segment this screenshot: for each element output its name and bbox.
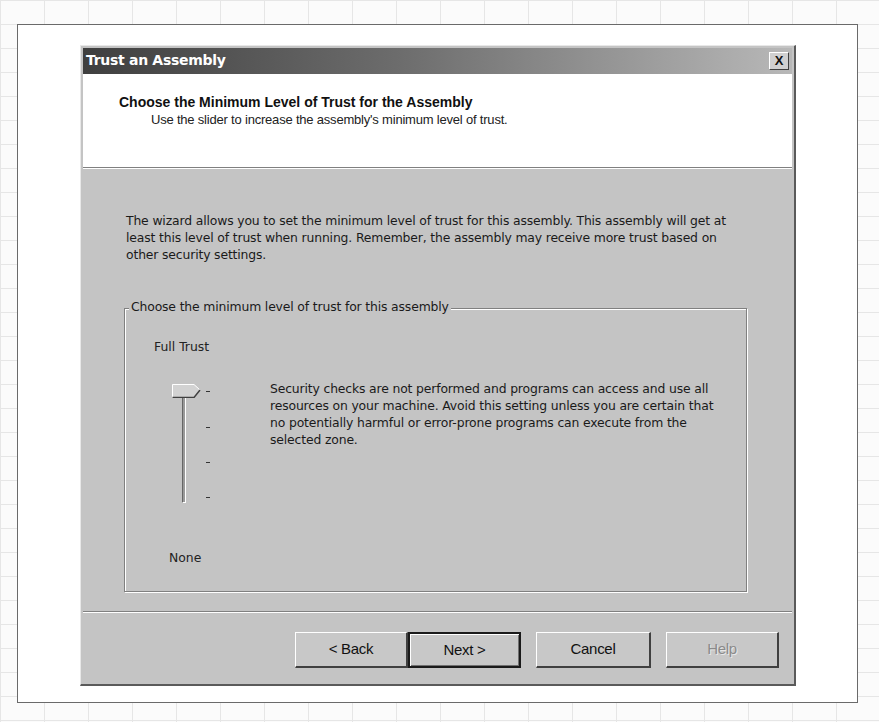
slider-label-none: None: [169, 550, 201, 565]
trust-level-slider[interactable]: [170, 384, 220, 514]
page-subtitle: Use the slider to increase the assembly'…: [151, 112, 508, 127]
window-title: Trust an Assembly: [86, 52, 226, 68]
help-button[interactable]: Help: [666, 632, 779, 668]
trust-level-description: Security checks are not performed and pr…: [270, 380, 730, 448]
slider-tick: [206, 391, 210, 392]
close-button[interactable]: X: [769, 52, 789, 70]
slider-tick: [206, 427, 210, 428]
slider-label-full-trust: Full Trust: [154, 339, 209, 354]
wizard-header: Choose the Minimum Level of Trust for th…: [83, 74, 792, 168]
intro-text: The wizard allows you to set the minimum…: [126, 212, 726, 263]
slider-track[interactable]: [182, 396, 186, 503]
trust-assembly-dialog: Trust an Assembly X Choose the Minimum L…: [80, 45, 796, 686]
title-bar[interactable]: Trust an Assembly X: [83, 48, 792, 74]
button-separator: [83, 611, 792, 613]
slider-tick: [206, 497, 210, 498]
page-title: Choose the Minimum Level of Trust for th…: [119, 94, 472, 110]
next-button[interactable]: Next >: [408, 632, 521, 668]
groupbox-legend: Choose the minimum level of trust for th…: [129, 299, 451, 314]
trust-level-groupbox: Choose the minimum level of trust for th…: [124, 308, 747, 592]
slider-tick: [206, 462, 210, 463]
close-icon: X: [775, 53, 784, 68]
slider-thumb[interactable]: [172, 384, 202, 398]
back-button[interactable]: < Back: [295, 632, 408, 668]
cancel-button[interactable]: Cancel: [536, 632, 651, 668]
